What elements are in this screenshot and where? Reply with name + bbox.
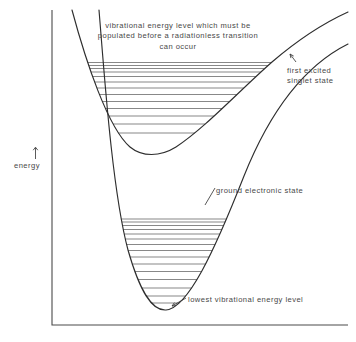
top-caption-line-3: can occur [98,42,258,52]
ground-electronic-state-curve [99,10,348,310]
potential-energy-diagram: vibrational energy level which must be p… [0,0,356,342]
lowest-vib-leader [172,298,186,306]
ground-electronic-state-label: ground electronic state [216,186,303,196]
ground-state-leader [205,188,215,205]
top-caption-line-2: populated before a radiationless transit… [98,31,258,41]
leader-lines [172,54,296,306]
lower-well-vibrational-levels [121,219,226,303]
first-excited-line-1: first excited [287,66,333,76]
lowest-vibrational-energy-level-label: lowest vibrational energy level [188,295,303,305]
y-axis-label: energy [14,161,40,171]
energy-up-arrow-icon [31,146,40,159]
first-excited-line-2: singlet state [287,76,333,86]
first-excited-singlet-label: first excited singlet state [287,66,333,87]
top-caption-line-1: vibrational energy level which must be [98,21,258,31]
top-caption: vibrational energy level which must be p… [98,21,258,52]
upper-well-vibrational-levels [88,63,272,134]
axis-lines [52,10,348,325]
axes-group [52,10,348,325]
